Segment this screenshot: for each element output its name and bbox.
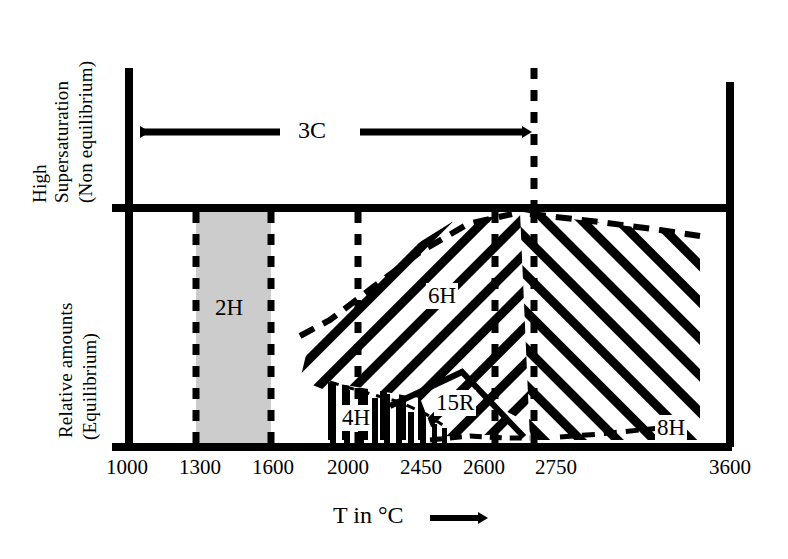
y-axis-label-upper-line1: High (29, 164, 50, 203)
y-axis-label-upper-3: (Non equilibrium) (76, 8, 96, 203)
region-label-6h: 6H (426, 283, 458, 309)
x-tick-label-1600: 1600 (238, 455, 308, 480)
x-tick-label-2000: 2000 (313, 455, 383, 480)
x-tick-label-1300: 1300 (165, 455, 235, 480)
y-axis-label-lower: Relative amounts (56, 258, 76, 438)
x-axis-title: T in °C (333, 502, 404, 529)
polytype-stability-diagram: High Supersaturation (Non equilibrium) R… (0, 0, 788, 559)
y-axis-label-lower-2: (Equilibrium) (80, 270, 100, 440)
y-axis-label-upper-line3: (Non equilibrium) (75, 61, 96, 203)
x-tick-label-1000: 1000 (92, 455, 162, 480)
y-axis-label-upper-2: Supersaturation (52, 10, 72, 203)
region-label-8h: 8H (655, 415, 687, 441)
region-label-2h: 2H (215, 295, 243, 321)
region-2h-fill (196, 212, 271, 445)
x-tick-label-2600: 2600 (449, 455, 519, 480)
y-axis-label-upper: High (30, 18, 50, 203)
x-tick-label-2450: 2450 (386, 455, 456, 480)
region-label-15r: 15R (434, 390, 476, 416)
y-axis-label-lower-line1: Relative amounts (55, 302, 76, 438)
y-axis-label-lower-line2: (Equilibrium) (79, 333, 100, 440)
region-fills (120, 200, 740, 460)
x-tick-label-3600: 3600 (695, 455, 765, 480)
three-c-label: 3C (296, 117, 328, 144)
x-tick-label-2750: 2750 (521, 455, 591, 480)
y-axis-label-upper-line2: Supersaturation (51, 81, 72, 203)
region-label-4h: 4H (340, 405, 372, 431)
